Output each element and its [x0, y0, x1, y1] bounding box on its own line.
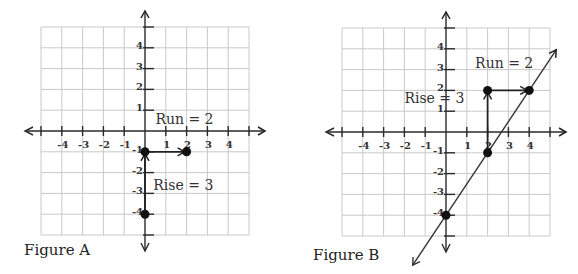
data-point — [141, 210, 150, 219]
y-tick-label: -3 — [132, 185, 143, 196]
y-tick-label: 4 — [437, 41, 444, 52]
y-tick-label: -2 — [433, 166, 444, 177]
x-tick-label: -4 — [358, 140, 369, 151]
x-tick-label: 1 — [163, 139, 170, 150]
x-tick-label: 4 — [226, 139, 233, 150]
y-tick-label: -1 — [433, 145, 444, 156]
slope-line-start-arrow-icon — [413, 257, 420, 265]
rise-label: Rise = 3 — [153, 177, 213, 193]
figure-title: Figure B — [313, 246, 379, 264]
figure-title: Figure A — [24, 241, 90, 259]
y-tick-label: 3 — [136, 61, 143, 72]
x-tick-label: 1 — [464, 140, 471, 151]
data-point — [483, 148, 492, 157]
x-tick-label: 3 — [205, 139, 212, 150]
data-point — [141, 147, 150, 156]
figure-b: -4-3-2-112344321-1-2-3-4Run = 2Rise = 3F… — [313, 12, 566, 265]
slope-line — [413, 50, 557, 265]
run-label: Run = 2 — [155, 111, 213, 127]
y-tick-label: -3 — [433, 186, 444, 197]
x-tick-label: -2 — [400, 140, 411, 151]
run-label: Run = 2 — [475, 55, 533, 71]
x-tick-label: -1 — [421, 140, 432, 151]
y-tick-label: -2 — [132, 165, 143, 176]
y-tick-label: 3 — [437, 62, 444, 73]
data-point — [525, 86, 534, 95]
rise-label: Rise = 3 — [404, 90, 464, 106]
x-tick-label: -2 — [99, 139, 110, 150]
data-point — [442, 211, 451, 220]
data-point — [182, 147, 191, 156]
x-tick-label: -4 — [57, 139, 68, 150]
y-tick-label: 1 — [136, 102, 143, 113]
y-tick-label: 2 — [136, 81, 143, 92]
x-tick-label: -3 — [379, 140, 390, 151]
x-tick-label: 4 — [527, 140, 534, 151]
x-tick-label: -1 — [120, 139, 131, 150]
x-tick-label: 3 — [506, 140, 513, 151]
x-tick-label: -3 — [78, 139, 89, 150]
figure-a: -4-3-2-112344321-1-2-3-4Run = 2Rise = 3F… — [24, 11, 265, 259]
y-tick-label: 4 — [136, 40, 143, 51]
data-point — [483, 86, 492, 95]
figures-canvas: -4-3-2-112344321-1-2-3-4Run = 2Rise = 3F… — [0, 0, 578, 274]
